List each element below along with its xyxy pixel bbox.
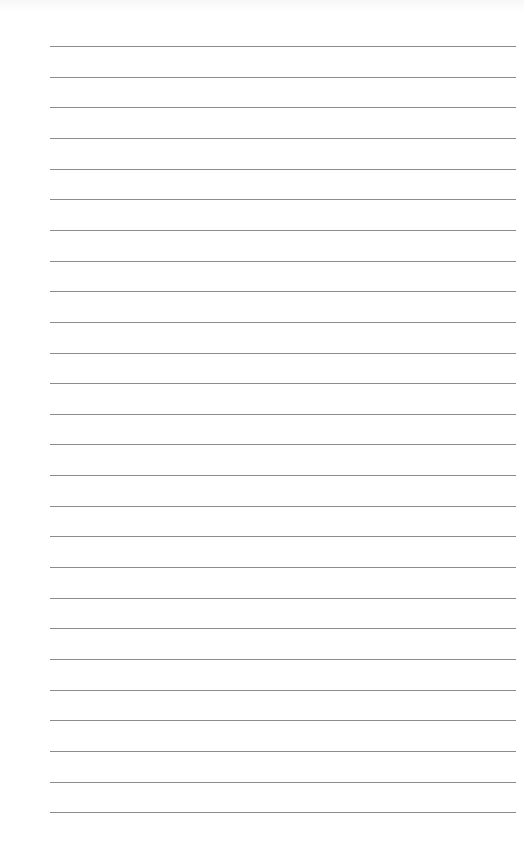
ruled-line (50, 812, 516, 813)
ruled-line (50, 383, 516, 384)
ruled-line (50, 291, 516, 292)
ruled-line (50, 138, 516, 139)
ruled-line (50, 690, 516, 691)
ruled-line (50, 598, 516, 599)
ruled-line (50, 751, 516, 752)
ruled-line (50, 475, 516, 476)
ruled-line (50, 77, 516, 78)
ruled-line (50, 628, 516, 629)
ruled-line (50, 230, 516, 231)
ruled-line (50, 506, 516, 507)
ruled-line (50, 536, 516, 537)
ruled-line (50, 353, 516, 354)
ruled-line (50, 261, 516, 262)
ruled-line (50, 659, 516, 660)
lined-paper (0, 0, 524, 859)
ruled-line (50, 567, 516, 568)
ruled-line (50, 444, 516, 445)
ruled-line (50, 107, 516, 108)
ruled-line (50, 46, 516, 47)
ruled-line (50, 720, 516, 721)
ruled-line (50, 414, 516, 415)
ruled-line (50, 322, 516, 323)
ruled-line (50, 782, 516, 783)
ruled-line (50, 169, 516, 170)
ruled-line (50, 199, 516, 200)
